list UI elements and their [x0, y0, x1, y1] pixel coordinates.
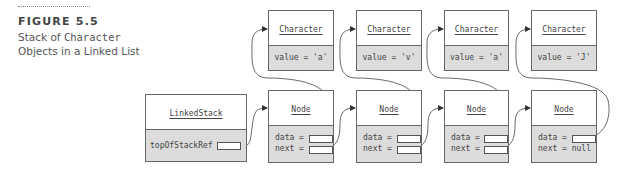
next-slot: [484, 146, 508, 154]
linked-stack-box: LinkedStack topOfStackRef =: [145, 94, 247, 162]
node-box-1: Node data = next =: [268, 90, 334, 163]
character-box-2: Character value = 'v': [356, 10, 422, 71]
character-box-4: Character value = 'J': [531, 10, 597, 71]
node-box-3: Node data = next =: [444, 90, 509, 163]
node-box-2: Node data = next =: [356, 90, 422, 163]
top-of-stack-ref-label: topOfStackRef =: [150, 141, 222, 150]
data-slot: [484, 135, 508, 143]
character-box-1: Character value = 'a': [268, 10, 334, 71]
data-slot: [309, 135, 333, 143]
data-slot: [397, 135, 421, 143]
next-slot: [397, 146, 421, 154]
linked-stack-class-name: LinkedStack: [170, 109, 223, 118]
node-box-4: Node data = next = null: [531, 90, 597, 163]
character-box-3: Character value = 'a': [444, 10, 509, 71]
data-slot: [572, 135, 596, 143]
top-of-stack-ref-slot: [217, 142, 241, 150]
next-slot: [309, 146, 333, 154]
